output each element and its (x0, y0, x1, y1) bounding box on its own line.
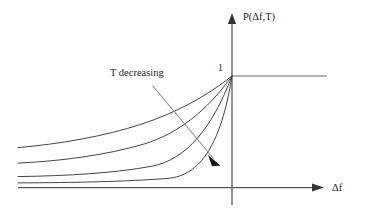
annotation-leader-line (153, 86, 214, 159)
y-axis-label: P(Δf,T) (243, 11, 276, 23)
curve-series-3 (18, 76, 232, 177)
annotation-label: T decreasing (110, 67, 164, 78)
figure-container: P(Δf,T) Δf 1 T decreasing (0, 0, 369, 216)
x-axis-arrowhead (312, 183, 324, 191)
plot-canvas: P(Δf,T) Δf 1 T decreasing (0, 0, 369, 216)
y-axis-arrowhead (228, 13, 236, 24)
curve-series-2 (18, 76, 232, 163)
annotation-arrowhead (208, 155, 221, 166)
y-axis-tick-label-one: 1 (218, 62, 223, 73)
x-axis-label: Δf (332, 182, 343, 193)
